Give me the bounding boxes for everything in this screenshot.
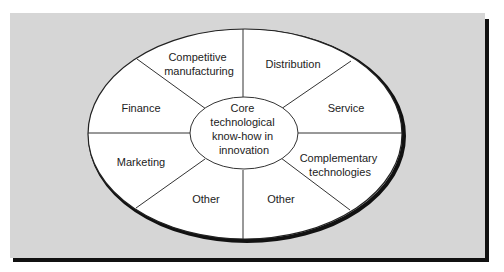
segment-label-service: Service xyxy=(328,102,365,114)
segment-label-marketing: Marketing xyxy=(117,156,165,168)
segment-label-finance: Finance xyxy=(121,102,160,114)
segment-label-other-right: Other xyxy=(267,193,295,205)
segment-label-distribution: Distribution xyxy=(265,58,320,70)
complementary-assets-diagram: Core technological know-how in innovatio… xyxy=(0,0,504,272)
segment-label-other-left: Other xyxy=(192,193,220,205)
